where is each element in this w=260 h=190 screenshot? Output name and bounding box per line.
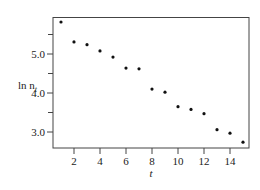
x-tick-label: 2 [71, 155, 77, 167]
data-point [241, 141, 244, 144]
data-point [85, 43, 88, 46]
y-tick-label: 5.0 [31, 48, 45, 60]
data-point [59, 20, 62, 23]
x-axis-ticks: 2468101214 [71, 148, 236, 167]
data-point [124, 66, 127, 69]
data-point [189, 108, 192, 111]
x-tick-label: 8 [149, 155, 155, 167]
data-points [59, 20, 244, 143]
y-axis-label: ln nt [18, 79, 38, 94]
x-tick-label: 14 [225, 155, 237, 167]
data-point [202, 112, 205, 115]
plot-frame [53, 18, 249, 149]
data-point [98, 49, 101, 52]
data-point [163, 91, 166, 94]
data-point [111, 56, 114, 59]
y-tick-label: 3.0 [31, 126, 45, 138]
data-point [215, 128, 218, 131]
data-point [176, 105, 179, 108]
data-point [72, 40, 75, 43]
x-tick-label: 12 [199, 155, 210, 167]
data-point [228, 132, 231, 135]
data-point [150, 88, 153, 91]
data-point [137, 67, 140, 70]
x-axis-label: t [149, 167, 153, 179]
x-tick-label: 10 [173, 155, 185, 167]
x-tick-label: 4 [97, 155, 103, 167]
x-tick-label: 6 [123, 155, 129, 167]
scatter-chart: 3.04.05.0 2468101214 ln nt t [0, 0, 260, 190]
